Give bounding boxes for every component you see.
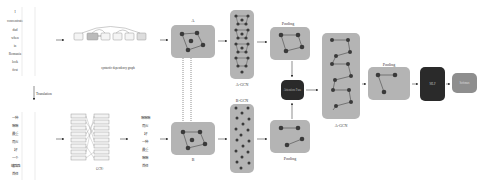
diagram-graphics [0, 0, 502, 187]
